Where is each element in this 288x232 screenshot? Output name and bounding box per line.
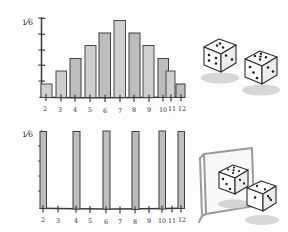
bar-4 [73, 132, 80, 210]
x-label-top-3: 5 [88, 106, 92, 114]
x-label-bottom-9: 11 [168, 217, 176, 225]
bars-bottom [40, 131, 185, 210]
y-axis-label-bottom: 1⁄6 [22, 129, 33, 139]
x-label-bottom-8: 10 [158, 217, 166, 225]
chart-two-dice: 1⁄6 [0, 2, 190, 118]
x-label-top-10: 12 [178, 105, 186, 113]
x-label-bottom-0: 2 [41, 216, 45, 224]
bar-2 [40, 132, 47, 209]
die-right [245, 51, 277, 84]
bar-6 [99, 33, 111, 98]
x-tick-labels-top: 2 3 4 5 6 7 8 9 10 11 12 [43, 105, 186, 115]
x-label-bottom-3: 5 [88, 217, 92, 225]
die-left [204, 39, 236, 72]
sketch-sheet: 1⁄6 [0, 0, 288, 232]
bar-7 [114, 21, 126, 98]
bar-6 [103, 131, 110, 209]
die-reflected-shadow [218, 200, 250, 209]
bar-4 [70, 59, 81, 98]
x-tick-labels-bottom: 2 3 4 5 6 7 8 9 10 11 12 [41, 216, 186, 226]
x-label-bottom-2: 4 [74, 217, 78, 225]
bar-11 [166, 71, 175, 98]
bar-8 [132, 132, 139, 210]
bar-10 [159, 131, 166, 209]
bar-12 [178, 132, 185, 209]
x-label-top-5: 7 [118, 107, 122, 115]
die-right-shadow [242, 85, 280, 96]
x-label-top-2: 4 [73, 106, 77, 114]
x-label-top-4: 6 [103, 107, 107, 115]
x-label-top-8: 10 [159, 106, 167, 114]
bar-5 [85, 46, 96, 98]
x-label-bottom-6: 8 [133, 218, 137, 226]
x-label-top-0: 2 [43, 105, 47, 113]
x-label-bottom-4: 6 [104, 218, 108, 226]
x-label-top-9: 11 [168, 105, 176, 113]
x-label-bottom-5: 7 [118, 218, 122, 226]
x-label-top-1: 3 [58, 106, 62, 114]
illustration-two-dice [190, 22, 288, 102]
chart-die-and-mirror: 1⁄6 [0, 120, 190, 230]
x-label-top-6: 8 [132, 106, 136, 114]
y-axis-label-top: 1⁄6 [22, 17, 33, 27]
bar-3 [56, 71, 67, 98]
illustration-die-and-mirror [190, 140, 288, 232]
bar-9 [143, 46, 154, 98]
x-label-top-7: 9 [147, 106, 151, 114]
die-left-shadow [201, 73, 239, 84]
x-label-bottom-10: 12 [178, 216, 186, 224]
x-label-bottom-7: 9 [147, 217, 151, 225]
die-real [247, 181, 276, 211]
bar-8 [129, 33, 140, 98]
x-label-bottom-1: 3 [56, 217, 60, 225]
die-real-shadow [245, 215, 279, 225]
bars-top [41, 21, 185, 98]
